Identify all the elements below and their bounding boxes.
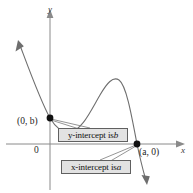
y-intercept-callout: y-intercept is b	[58, 128, 128, 142]
x-axis-label: x	[181, 146, 185, 155]
y-axis-label: y	[48, 5, 52, 14]
origin-label: 0	[34, 146, 39, 156]
y-intercept-callout-var: b	[114, 130, 118, 140]
x-intercept-callout-var: a	[117, 162, 121, 172]
y-intercept-point-label: (0, b)	[17, 117, 38, 127]
x-intercept-point-label: (a, 0)	[139, 148, 159, 158]
cubic-curve	[21, 48, 145, 177]
y-intercept-callout-lead: y-intercept is	[68, 130, 114, 140]
x-intercept-callout-lead: x-intercept is	[71, 162, 117, 172]
y-intercept-dot	[47, 115, 54, 122]
x-intercept-callout: x-intercept is a	[61, 160, 131, 174]
leader-line-x-upper	[100, 145, 136, 160]
curve-arrowhead-left	[16, 40, 24, 52]
curve-arrowhead-right	[142, 175, 150, 185]
graph-figure: y x 0 (0, b) (a, 0) y-intercept is b x-i…	[0, 0, 193, 193]
